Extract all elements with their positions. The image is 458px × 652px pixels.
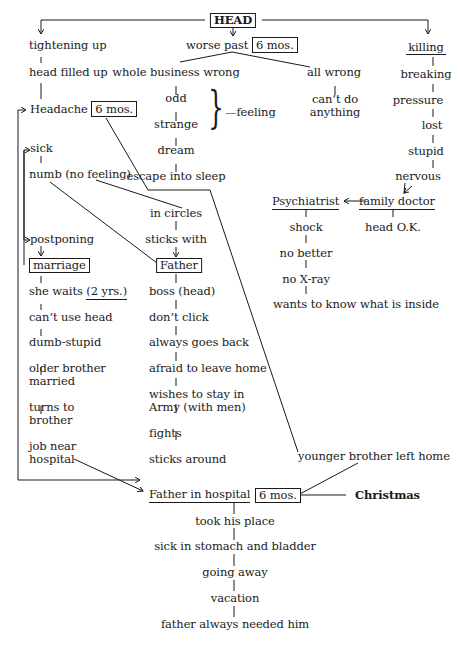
node-feeling: —feeling: [225, 106, 276, 119]
concept-diagram: HEAD worse past 6 mos. whole business wr…: [0, 0, 458, 652]
node-christmas: Christmas: [355, 489, 420, 502]
node-odd: odd: [165, 92, 186, 105]
node-whole-business-wrong: whole business wrong: [112, 66, 239, 79]
worse-past-duration: 6 mos.: [252, 37, 298, 53]
node-hospital: hospital: [29, 453, 75, 466]
node-all-wrong: all wrong: [307, 66, 361, 79]
node-cant-do-anything: can’t do anything: [300, 93, 370, 119]
node-took-his-place: took his place: [195, 515, 274, 528]
she-waits-label: she waits: [29, 284, 83, 298]
node-strange: strange: [154, 118, 198, 131]
node-vacation: vacation: [211, 592, 259, 605]
node-father-hospital-duration: 6 mos.: [255, 488, 301, 503]
node-postponing: postponing: [30, 233, 94, 246]
node-father-in-hospital: Father in hospital: [149, 488, 250, 503]
node-brother: brother: [29, 414, 72, 427]
node-no-better: no better: [280, 247, 333, 260]
node-psychiatrist: Psychiatrist: [272, 195, 339, 210]
node-no-xray: no X-ray: [282, 273, 330, 286]
node-escape-into-sleep: escape into sleep: [127, 170, 226, 183]
node-dream: dream: [158, 144, 195, 157]
node-numb: numb (no feeling): [29, 168, 131, 181]
headache-duration: 6 mos.: [91, 101, 137, 117]
node-stupid: stupid: [408, 145, 444, 158]
node-sick-in-stomach: sick in stomach and bladder: [154, 540, 316, 553]
node-sick: sick: [30, 142, 53, 155]
node-dont-click: don’t click: [149, 311, 209, 324]
node-breaking: breaking: [400, 68, 451, 81]
node-afraid-to-leave-home: afraid to leave home: [149, 362, 267, 375]
node-marriage: marriage: [29, 258, 90, 273]
node-sticks-with: sticks with: [145, 233, 207, 246]
node-sticks-around: sticks around: [149, 453, 226, 466]
node-in-circles: in circles: [150, 207, 202, 220]
node-worse-past: worse past 6 mos.: [186, 39, 298, 52]
she-waits-duration: (2 yrs.): [86, 284, 127, 300]
node-head-ok: head O.K.: [365, 221, 421, 234]
headache-label: Headache: [30, 102, 88, 116]
node-boss-head: boss (head): [149, 285, 215, 298]
node-family-doctor: family doctor: [359, 195, 435, 210]
node-always-goes-back: always goes back: [149, 336, 249, 349]
node-shock: shock: [289, 221, 322, 234]
node-married: married: [29, 375, 75, 388]
node-father-always-needed-him: father always needed him: [161, 618, 309, 631]
node-head-filled-up: head filled up: [29, 66, 108, 79]
brace-icon: }: [208, 86, 223, 130]
node-tightening-up: tightening up: [29, 39, 106, 52]
node-headache: Headache 6 mos.: [30, 103, 137, 116]
root-node-head: HEAD: [210, 13, 256, 28]
node-going-away: going away: [202, 566, 267, 579]
node-nervous: nervous: [395, 170, 441, 183]
node-fights: fights: [149, 427, 182, 440]
node-cant-use-head: can’t use head: [29, 311, 112, 324]
node-father: Father: [156, 258, 202, 273]
node-younger-brother-left-home: younger brother left home: [298, 450, 450, 463]
node-pressure: pressure: [393, 94, 443, 107]
node-she-waits: she waits (2 yrs.): [29, 285, 127, 298]
worse-past-label: worse past: [186, 38, 248, 52]
connector-lines: [0, 0, 458, 652]
node-wants-to-know: wants to know what is inside: [273, 298, 439, 311]
node-killing: killing: [406, 41, 446, 55]
node-army-with-men: Army (with men): [149, 401, 246, 414]
node-dumb-stupid: dumb-stupid: [29, 336, 101, 349]
node-lost: lost: [422, 119, 443, 132]
